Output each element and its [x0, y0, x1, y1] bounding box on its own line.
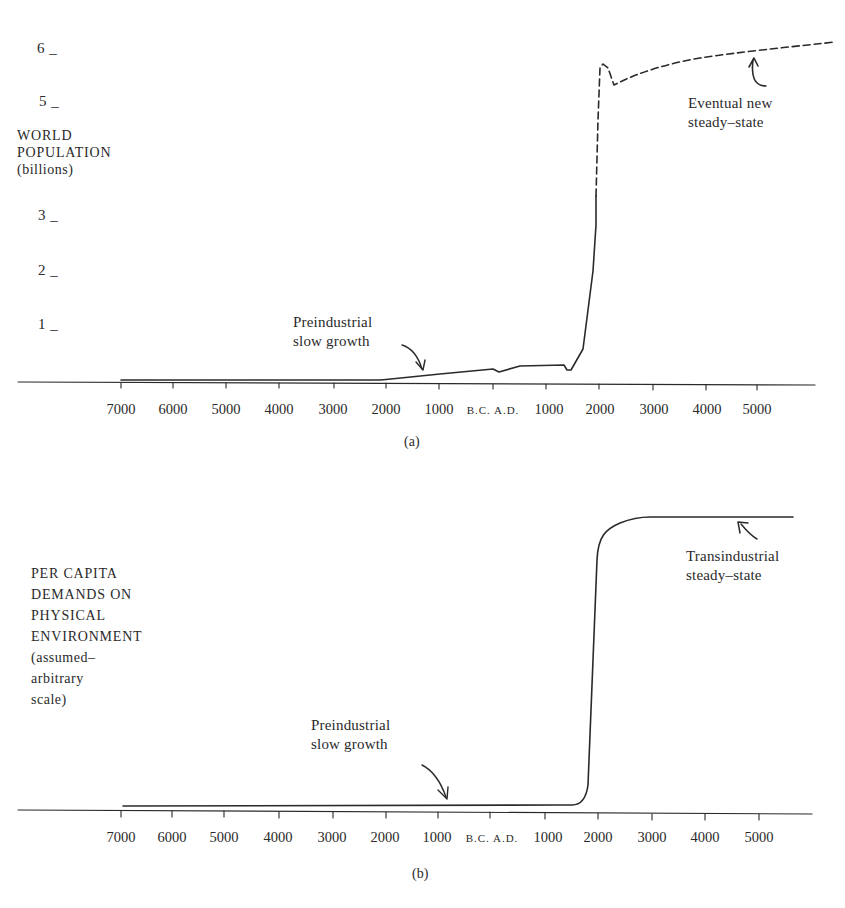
- x-axis-b: [18, 810, 812, 820]
- arrow-icon: [422, 765, 448, 799]
- x-axis-a: [18, 382, 815, 390]
- arrow-icon: [749, 58, 766, 86]
- per-capita-demand-line: [123, 517, 793, 806]
- arrow-icon: [738, 522, 757, 539]
- arrow-icon: [402, 345, 425, 370]
- population-projection-line: [596, 42, 835, 196]
- population-historical-line: [121, 196, 596, 380]
- chart-graphics: [0, 0, 845, 908]
